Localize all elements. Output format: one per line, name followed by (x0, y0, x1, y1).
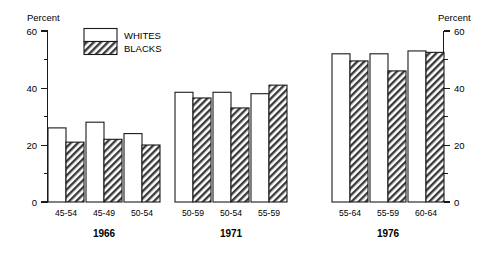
x-ticklabel-6: 55-64 (339, 208, 361, 218)
bar-blacks-55-64-6 (350, 61, 368, 202)
bar-whites-60-64-8 (408, 51, 426, 202)
legend-swatch-blacks (84, 42, 117, 55)
y-axis-right-title: Percent (438, 12, 471, 23)
bar-whites-55-64-6 (332, 54, 350, 202)
x-ticklabel-3: 50-59 (182, 208, 204, 218)
x-ticklabel-0: 45-54 (55, 208, 77, 218)
bar-whites-50-59-3 (175, 92, 193, 202)
x-ticklabel-7: 55-59 (377, 208, 399, 218)
chart-svg: Percent 60 40 20 0 Percent 60 40 20 0 (0, 0, 491, 255)
y-axis-left-title: Percent (27, 12, 60, 23)
bar-blacks-55-59-7 (388, 71, 406, 202)
bar-whites-55-59-5 (251, 94, 269, 202)
y-ticklabel-right-20: 20 (454, 140, 465, 151)
y-ticklabel-right-0: 0 (454, 197, 459, 208)
bar-blacks-60-64-8 (426, 52, 444, 202)
y-ticklabel-left-60: 60 (26, 26, 37, 37)
legend: WHITES BLACKS (84, 29, 162, 55)
bar-whites-45-54-0 (48, 128, 66, 202)
bar-blacks-55-59-5 (269, 85, 287, 202)
group-label-1971: 1971 (220, 228, 243, 239)
x-ticklabel-2: 50-54 (131, 208, 153, 218)
y-ticklabel-left-20: 20 (26, 140, 37, 151)
legend-label-blacks: BLACKS (124, 43, 162, 54)
y-ticklabel-left-40: 40 (26, 83, 37, 94)
legend-swatch-whites (84, 29, 117, 42)
group-labels: 196619711976 (93, 228, 400, 239)
bar-blacks-45-49-1 (104, 139, 122, 202)
x-ticklabel-5: 55-59 (258, 208, 280, 218)
bar-whites-45-49-1 (86, 122, 104, 202)
bar-blacks-45-54-0 (66, 142, 84, 202)
bar-blacks-50-54-4 (231, 108, 249, 202)
bar-blacks-50-54-2 (142, 145, 160, 202)
legend-label-whites: WHITES (124, 30, 161, 41)
group-label-1976: 1976 (377, 228, 400, 239)
x-ticklabel-1: 45-49 (93, 208, 115, 218)
bar-blacks-50-59-3 (193, 98, 211, 202)
bar-whites-55-59-7 (370, 54, 388, 202)
bar-whites-50-54-2 (124, 134, 142, 202)
bar-whites-50-54-4 (213, 92, 231, 202)
y-ticklabel-right-40: 40 (454, 83, 465, 94)
x-ticklabel-8: 60-64 (415, 208, 437, 218)
bars-layer (48, 51, 444, 202)
group-label-1966: 1966 (93, 228, 116, 239)
y-ticklabel-right-60: 60 (454, 26, 465, 37)
y-ticklabel-left-0: 0 (32, 197, 37, 208)
category-labels: 45-5445-4950-5450-5950-5455-5955-6455-59… (55, 208, 437, 218)
bar-chart: Percent 60 40 20 0 Percent 60 40 20 0 (0, 0, 491, 255)
x-ticklabel-4: 50-54 (220, 208, 242, 218)
